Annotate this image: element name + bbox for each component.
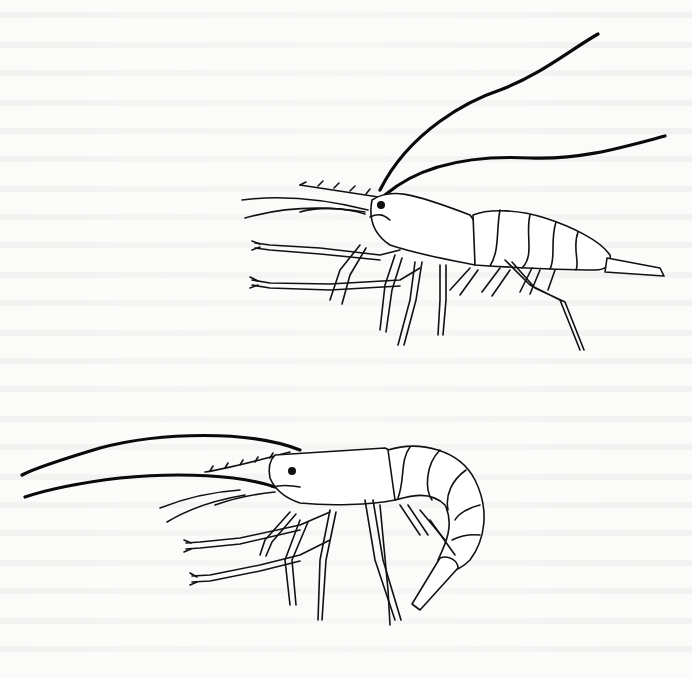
lower-shrimp	[22, 436, 484, 626]
upper-shrimp	[242, 34, 665, 350]
shrimp-illustrations	[0, 0, 692, 678]
scanned-page	[0, 0, 692, 678]
